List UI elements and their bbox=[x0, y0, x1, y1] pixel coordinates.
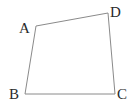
vertex-label-a: A bbox=[19, 20, 30, 36]
vertex-label-c: C bbox=[117, 86, 127, 102]
vertex-label-b: B bbox=[9, 86, 19, 102]
quadrilateral-diagram: A D B C bbox=[0, 0, 135, 107]
vertex-label-d: D bbox=[110, 4, 121, 20]
quadrilateral-abcd bbox=[25, 13, 115, 94]
